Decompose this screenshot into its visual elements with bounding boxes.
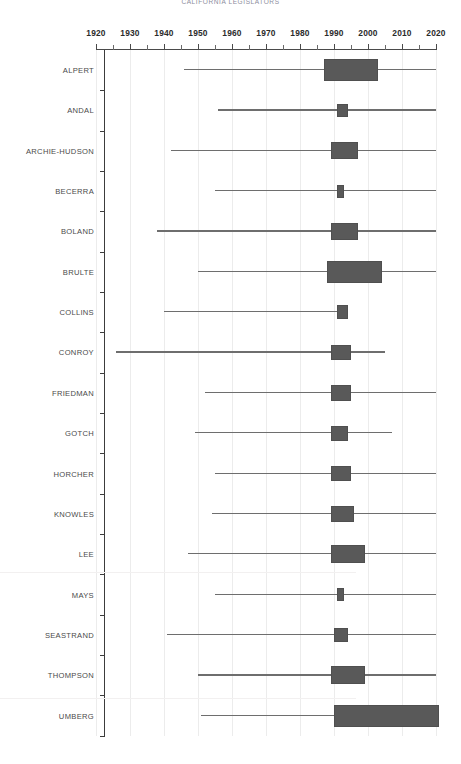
box-brulte [327, 261, 381, 283]
box-mays [337, 588, 344, 601]
y-tick-umberg [100, 736, 105, 737]
boxplot-row [105, 615, 436, 655]
category-label-seastrand: SEASTRAND [45, 630, 94, 639]
x-tick-label-1930: 1930 [120, 28, 139, 38]
category-label-alpert: ALPERT [63, 66, 94, 75]
gridline-2020 [436, 50, 437, 736]
category-label-lee: LEE [79, 550, 94, 559]
box-gotch [331, 426, 348, 441]
whisker-friedman [205, 392, 436, 393]
category-label-horcher: HORCHER [54, 469, 95, 478]
box-andal [337, 104, 347, 117]
boxplot-chart: CALIFORNIA LEGISLATORS 19201930194019501… [0, 0, 461, 764]
boxplot-row [105, 454, 436, 494]
x-tick-label-2000: 2000 [358, 28, 377, 38]
box-horcher [331, 466, 351, 481]
box-collins [337, 305, 347, 318]
category-label-mays: MAYS [72, 590, 94, 599]
category-label-becerra: BECERRA [55, 187, 94, 196]
box-thompson [331, 666, 365, 684]
whisker-becerra [215, 190, 436, 191]
boxplot-row [105, 90, 436, 130]
box-lee [331, 545, 365, 563]
box-knowles [331, 506, 355, 522]
boxplot-row [105, 534, 436, 574]
category-label-archie-hudson: ARCHIE-HUDSON [26, 146, 94, 155]
whisker-boland [157, 230, 436, 231]
x-tick-label-1970: 1970 [256, 28, 275, 38]
boxplot-row [105, 131, 436, 171]
x-tick-label-1990: 1990 [324, 28, 343, 38]
category-label-collins: COLLINS [59, 308, 94, 317]
category-label-conroy: CONROY [59, 348, 94, 357]
boxplot-row [105, 413, 436, 453]
gridline-1920 [96, 50, 97, 736]
whisker-brulte [198, 271, 436, 272]
boxplot-row [105, 696, 436, 736]
whisker-gotch [195, 432, 392, 433]
x-tick-label-1950: 1950 [188, 28, 207, 38]
box-archie-hudson [331, 142, 358, 159]
x-tick-label-1960: 1960 [222, 28, 241, 38]
x-tick-label-1940: 1940 [154, 28, 173, 38]
x-tick-label-1980: 1980 [290, 28, 309, 38]
whisker-collins [164, 311, 348, 312]
box-seastrand [334, 628, 348, 642]
whisker-archie-hudson [171, 150, 436, 151]
whisker-horcher [215, 473, 436, 474]
plot-area [105, 50, 436, 736]
box-conroy [331, 345, 351, 360]
box-umberg [334, 705, 439, 727]
whisker-andal [218, 109, 436, 110]
box-alpert [324, 59, 378, 81]
boxplot-row [105, 575, 436, 615]
category-label-brulte: BRULTE [63, 267, 94, 276]
boxplot-row [105, 50, 436, 90]
whisker-alpert [184, 69, 436, 70]
chart-title: CALIFORNIA LEGISLATORS [0, 0, 461, 6]
x-tick-label-1920: 1920 [86, 28, 105, 38]
x-tick-label-2010: 2010 [392, 28, 411, 38]
category-label-umberg: UMBERG [59, 711, 94, 720]
box-friedman [331, 385, 351, 400]
category-label-knowles: KNOWLES [54, 509, 94, 518]
category-label-friedman: FRIEDMAN [52, 388, 94, 397]
box-boland [331, 223, 358, 240]
whisker-thompson [198, 674, 436, 675]
boxplot-row [105, 655, 436, 695]
category-label-gotch: GOTCH [65, 429, 94, 438]
whisker-knowles [212, 513, 436, 514]
whisker-lee [188, 553, 436, 554]
x-axis-tick-labels: 1920193019401950196019701980199020002010… [0, 28, 461, 40]
boxplot-row [105, 252, 436, 292]
x-tick-label-2020: 2020 [426, 28, 445, 38]
boxplot-row [105, 292, 436, 332]
category-label-boland: BOLAND [61, 227, 94, 236]
box-becerra [337, 185, 344, 198]
category-label-andal: ANDAL [67, 106, 94, 115]
boxplot-row [105, 211, 436, 251]
boxplot-row [105, 373, 436, 413]
whisker-mays [215, 594, 436, 595]
boxplot-row [105, 494, 436, 534]
category-label-thompson: THOMPSON [48, 671, 94, 680]
whisker-seastrand [167, 634, 436, 635]
boxplot-row [105, 171, 436, 211]
boxplot-row [105, 332, 436, 372]
